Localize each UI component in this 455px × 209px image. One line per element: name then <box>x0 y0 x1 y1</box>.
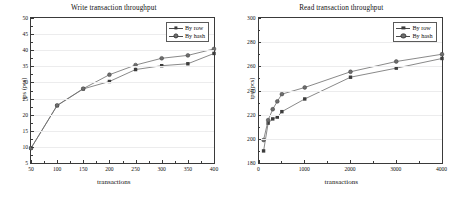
data-point-marker <box>134 68 137 71</box>
y-axis-tick <box>31 115 34 116</box>
x-axis-tick-label: 300 <box>158 166 166 172</box>
data-point-marker <box>160 56 164 60</box>
y-axis-tick <box>31 131 34 132</box>
y-axis-minor-tick <box>31 139 33 140</box>
y-axis-tick <box>31 18 34 19</box>
y-axis-minor-tick <box>31 91 33 92</box>
x-axis-minor-tick <box>123 161 124 163</box>
gridline <box>31 50 214 51</box>
x-axis-tick <box>162 160 163 163</box>
x-axis-minor-tick <box>419 161 420 163</box>
x-axis-tick <box>31 160 32 163</box>
gridline <box>31 131 214 132</box>
x-axis-minor-tick <box>281 161 282 163</box>
x-axis-minor-tick <box>327 161 328 163</box>
legend-label-by-hash: By hash <box>412 33 432 39</box>
legend-marker-circle-icon <box>396 33 410 39</box>
plot-region-read: 18020022024026028030001000200030004000 B… <box>258 17 441 162</box>
y-axis-tick-label: 45 <box>22 31 28 37</box>
data-point-marker <box>261 149 264 152</box>
legend-label-by-hash: By hash <box>185 33 205 39</box>
y-axis-tick <box>259 163 262 164</box>
legend-entry-by-row: By row <box>396 25 432 31</box>
y-axis-tick <box>31 99 34 100</box>
legend-write: By row By hash <box>166 22 209 42</box>
data-point-marker <box>186 62 189 65</box>
y-axis-tick <box>31 66 34 67</box>
x-axis-title-read: transactions <box>228 178 455 186</box>
data-point-marker <box>81 87 85 91</box>
x-axis-tick-label: 2000 <box>344 166 355 172</box>
gridline <box>259 115 442 116</box>
y-axis-tick-label: 280 <box>247 39 255 45</box>
gridline <box>31 147 214 148</box>
data-point-marker <box>266 121 269 124</box>
y-axis-minor-tick <box>259 151 261 152</box>
x-axis-title-write: transactions <box>0 178 228 186</box>
y-axis-minor-tick <box>31 107 33 108</box>
gridline <box>31 99 214 100</box>
x-axis-minor-tick <box>149 161 150 163</box>
x-axis-tick <box>109 160 110 163</box>
gridline <box>259 66 442 67</box>
y-axis-tick-label: 300 <box>247 15 255 21</box>
x-axis-tick <box>83 160 84 163</box>
x-axis-minor-tick <box>373 161 374 163</box>
y-axis-tick <box>31 50 34 51</box>
y-axis-tick-label: 15 <box>22 128 28 134</box>
x-axis-tick-label: 100 <box>53 166 61 172</box>
y-axis-tick <box>31 82 34 83</box>
y-axis-minor-tick <box>259 127 261 128</box>
data-point-marker <box>302 86 306 90</box>
y-axis-tick-label: 180 <box>247 160 255 166</box>
legend-marker-square-icon <box>169 25 183 31</box>
data-point-marker <box>394 60 398 64</box>
x-axis-tick-label: 50 <box>28 166 34 172</box>
data-point-marker <box>266 118 270 122</box>
x-axis-minor-tick <box>44 161 45 163</box>
y-axis-minor-tick <box>31 58 33 59</box>
chart-panel-write: Write transaction throughput 51015202530… <box>0 0 228 209</box>
x-axis-tick <box>350 160 351 163</box>
legend-entry-by-hash: By hash <box>396 33 432 39</box>
x-axis-tick-label: 3000 <box>390 166 401 172</box>
x-axis-tick-label: 350 <box>184 166 192 172</box>
x-axis-tick <box>259 160 260 163</box>
y-axis-tick <box>259 115 262 116</box>
x-axis-tick-label: 0 <box>257 166 260 172</box>
data-point-marker <box>275 115 278 118</box>
chart-title-write: Write transaction throughput <box>0 4 228 12</box>
y-axis-tick <box>31 34 34 35</box>
x-axis-tick-label: 400 <box>210 166 218 172</box>
data-point-marker <box>108 73 112 77</box>
legend-entry-by-row: By row <box>169 25 205 31</box>
gridline <box>259 139 442 140</box>
data-point-marker <box>348 70 352 74</box>
data-point-marker <box>270 107 274 111</box>
data-point-marker <box>279 92 283 96</box>
y-axis-minor-tick <box>259 30 261 31</box>
legend-label-by-row: By row <box>185 25 203 31</box>
y-axis-tick-label: 10 <box>22 144 28 150</box>
data-point-marker <box>303 97 306 100</box>
y-axis-minor-tick <box>31 42 33 43</box>
legend-entry-by-hash: By hash <box>169 33 205 39</box>
y-axis-tick <box>259 91 262 92</box>
y-axis-tick <box>259 139 262 140</box>
x-axis-tick-label: 200 <box>105 166 113 172</box>
legend-label-by-row: By row <box>412 25 430 31</box>
chart-title-read: Read transaction throughput <box>228 4 455 12</box>
y-axis-minor-tick <box>259 78 261 79</box>
x-axis-minor-tick <box>175 161 176 163</box>
data-point-marker <box>82 87 85 90</box>
y-axis-minor-tick <box>259 103 261 104</box>
data-point-marker <box>275 99 279 103</box>
y-axis-minor-tick <box>31 123 33 124</box>
figure-two-line-charts: Write transaction throughput 51015202530… <box>0 0 455 209</box>
y-axis-title-write: tps (pcs) <box>20 58 27 118</box>
x-axis-tick <box>188 160 189 163</box>
y-axis-tick <box>259 42 262 43</box>
data-point-marker <box>55 104 58 107</box>
y-axis-tick <box>31 147 34 148</box>
x-axis-tick-label: 150 <box>79 166 87 172</box>
